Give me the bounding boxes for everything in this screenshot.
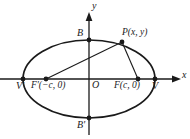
covertex-bottom-label: B' — [77, 120, 85, 130]
covertex-top-label: B — [77, 28, 83, 38]
y-axis-arrowhead-icon — [86, 12, 93, 21]
point-covertex-bottom — [87, 116, 92, 121]
vertex-left-label: V' — [16, 81, 24, 91]
vertex-right-label: V — [152, 81, 158, 91]
x-axis-label: x — [182, 70, 186, 80]
focus-left-label: F'(−c, 0) — [31, 81, 65, 91]
ellipse-figure: y x O V' V F'(−c, 0) F(c, 0) B B' P(x, y… — [0, 0, 190, 139]
segment-left-focus-to-p — [46, 42, 122, 79]
diagram-canvas — [0, 0, 190, 139]
point-covertex-top — [87, 38, 92, 43]
point-p — [120, 40, 125, 45]
y-axis-label: y — [92, 1, 96, 11]
point-p-label: P(x, y) — [122, 28, 147, 38]
x-axis-arrowhead-icon — [172, 76, 181, 83]
origin-label: O — [92, 80, 99, 90]
focus-right-label: F(c, 0) — [114, 81, 140, 91]
